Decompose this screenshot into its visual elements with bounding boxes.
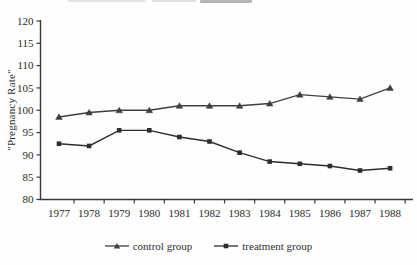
x-axis-tick-label: 1978: [78, 207, 101, 219]
y-axis-tick-label: 85: [23, 171, 35, 183]
x-axis-tick-label: 1981: [168, 207, 190, 219]
legend-label-control-group: control group: [133, 240, 193, 252]
treatment-group-point: [328, 164, 333, 169]
treatment-group-point: [117, 128, 122, 133]
control-group-line: [59, 88, 390, 117]
line-chart-canvas: 1201151101051009590858019771978197919801…: [0, 0, 417, 265]
x-axis-tick-label: 1986: [319, 207, 342, 219]
pregnancy-rate-chart-figure: "Pregnancy Rate" 12011511010510095908580…: [0, 0, 417, 265]
x-axis-tick-label: 1982: [199, 207, 221, 219]
y-axis-tick-label: 115: [17, 37, 34, 49]
triangle-marker-icon: [105, 241, 129, 251]
treatment-group-point: [177, 135, 182, 140]
chart-legend: control group treatment group: [0, 240, 417, 252]
y-axis-tick-label: 120: [17, 15, 34, 27]
x-axis-tick-label: 1979: [108, 207, 131, 219]
y-axis-tick-label: 80: [23, 193, 35, 205]
treatment-group-point: [87, 144, 92, 149]
x-axis-tick-label: 1980: [138, 207, 161, 219]
y-axis-tick-label: 105: [17, 82, 34, 94]
y-axis-tick-label: 110: [17, 59, 34, 71]
treatment-group-point: [298, 162, 303, 167]
x-axis-tick-label: 1988: [379, 207, 402, 219]
y-axis-tick-label: 100: [17, 104, 34, 116]
legend-item-treatment-group: treatment group: [214, 240, 312, 252]
x-axis-tick-label: 1983: [229, 207, 252, 219]
treatment-group-point: [358, 168, 363, 173]
x-axis-tick-label: 1987: [349, 207, 372, 219]
treatment-group-point: [57, 141, 62, 146]
treatment-group-point: [388, 166, 393, 171]
treatment-group-point: [267, 159, 272, 164]
x-axis-tick-label: 1977: [48, 207, 71, 219]
x-axis-tick-label: 1984: [259, 207, 282, 219]
treatment-group-point: [237, 150, 242, 155]
y-axis-tick-label: 90: [23, 149, 35, 161]
legend-item-control-group: control group: [105, 240, 193, 252]
treatment-group-line: [59, 130, 390, 170]
control-group-point: [387, 85, 394, 91]
treatment-group-point: [207, 139, 212, 144]
treatment-group-point: [147, 128, 152, 133]
y-axis-tick-label: 95: [23, 126, 35, 138]
x-axis-tick-label: 1985: [289, 207, 312, 219]
legend-label-treatment-group: treatment group: [242, 240, 312, 252]
square-marker-icon: [214, 241, 238, 251]
